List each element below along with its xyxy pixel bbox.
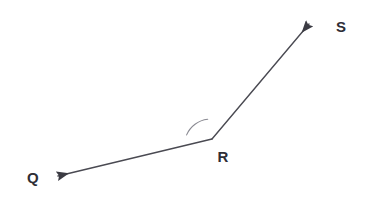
vertex-label-r: R [217, 149, 228, 164]
vertex-label-q: Q [27, 170, 39, 185]
ray-rs [212, 24, 309, 139]
vertex-label-s: S [336, 19, 346, 34]
geometry-canvas [0, 0, 373, 204]
ray-rq [58, 139, 212, 176]
geometry-figure: Q R S [0, 0, 373, 204]
angle-arc-icon [187, 119, 208, 135]
rays-group [58, 24, 309, 176]
